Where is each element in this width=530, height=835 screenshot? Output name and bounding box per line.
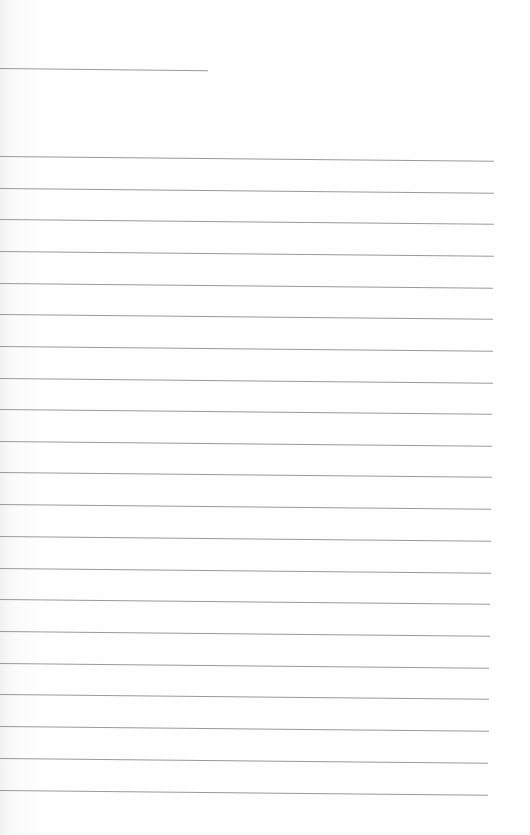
ruled-line (0, 314, 493, 320)
ruled-line (0, 694, 489, 700)
ruled-line (0, 726, 489, 732)
ruled-line (0, 536, 491, 542)
ruled-line (0, 188, 494, 194)
ruled-line (0, 504, 491, 510)
ruled-line (0, 378, 493, 384)
ruled-line (0, 156, 494, 162)
ruled-line (0, 251, 494, 257)
ruled-line (0, 568, 491, 574)
ruled-line (0, 219, 494, 225)
ruled-line (0, 346, 493, 352)
lined-paper-page (0, 0, 530, 835)
ruled-line (0, 283, 493, 289)
header-rule (0, 68, 208, 71)
ruled-line (0, 441, 492, 447)
ruled-line (0, 758, 488, 764)
ruled-line (0, 599, 490, 605)
ruled-line (0, 631, 490, 637)
ruled-line (0, 409, 492, 415)
ruled-line (0, 790, 488, 796)
ruled-line (0, 663, 489, 669)
ruled-line (0, 472, 492, 478)
